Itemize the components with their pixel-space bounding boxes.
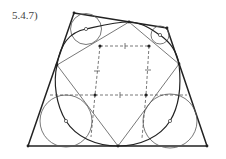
vertex-dots [27,12,209,148]
locus-curve [55,22,180,146]
dashed-square [50,46,187,138]
geometry-diagram [0,0,226,159]
equal-length-ticks [94,43,151,98]
square-vertex-dots [93,44,150,96]
circle-center-dots [64,27,171,122]
